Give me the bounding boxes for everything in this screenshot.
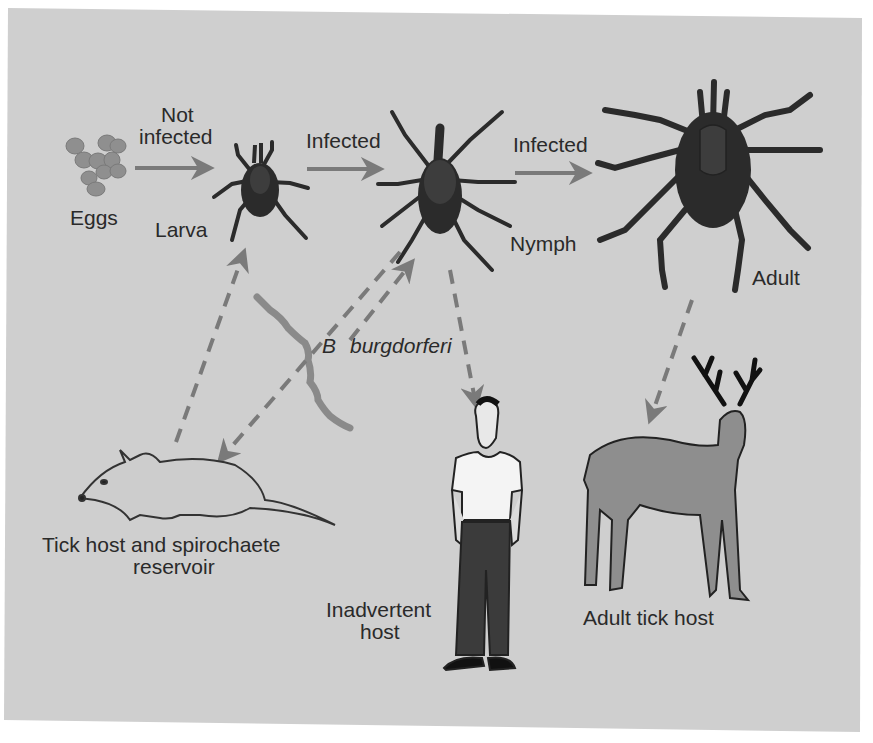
reservoir-host-label-line2: reservoir <box>133 555 215 578</box>
infected-label-1: Infected <box>306 129 381 152</box>
infected-label-2: Infected <box>513 133 588 156</box>
eggs-label: Eggs <box>70 206 118 229</box>
reservoir-host-label-line1: Tick host and spirochaete <box>42 533 281 556</box>
inadvertent-host-label-line1: Inadvertent <box>326 598 431 621</box>
pathogen-genus-label: B <box>322 334 336 357</box>
adult-tick-host-label: Adult tick host <box>583 606 714 629</box>
nymph-label: Nymph <box>510 232 577 255</box>
not-infected-label-line1: Not <box>161 103 194 126</box>
larva-label: Larva <box>155 218 208 241</box>
diagram-panel <box>4 8 862 732</box>
not-infected-label-line2: infected <box>139 125 213 148</box>
adult-label: Adult <box>752 266 800 289</box>
lyme-life-cycle-diagram: Eggs Not infected Larva Infected Nymph <box>0 0 873 743</box>
pathogen-species-label: burgdorferi <box>350 334 453 357</box>
inadvertent-host-label-line2: host <box>360 620 400 643</box>
